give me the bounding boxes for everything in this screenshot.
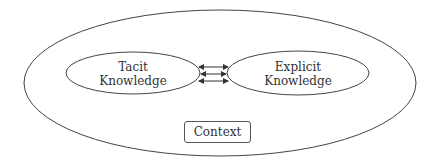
tacit-knowledge-label: Tacit Knowledge: [93, 60, 173, 88]
tacit-line1: Tacit: [93, 60, 173, 74]
bidirectional-arrows: [199, 67, 228, 81]
context-box: Context: [184, 121, 251, 143]
explicit-knowledge-label: Explicit Knowledge: [258, 60, 338, 88]
explicit-line1: Explicit: [258, 60, 338, 74]
tacit-line2: Knowledge: [93, 74, 173, 88]
explicit-line2: Knowledge: [258, 74, 338, 88]
